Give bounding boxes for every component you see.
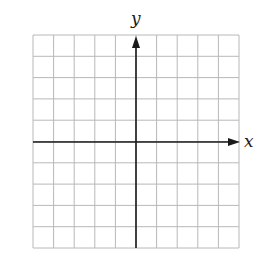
x-axis-arrow-icon xyxy=(228,138,240,146)
y-axis-label: y xyxy=(130,8,141,28)
coordinate-plane: x y xyxy=(0,0,266,262)
x-axis-label: x xyxy=(244,131,254,151)
y-axis-arrow-icon xyxy=(132,36,140,48)
